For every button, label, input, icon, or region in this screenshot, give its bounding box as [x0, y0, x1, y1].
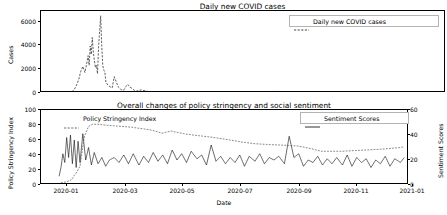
figure-canvas: Daily new COVID cases Cases 0 2000 4000 …: [0, 0, 447, 215]
y-tick-ss-60: 60: [410, 106, 428, 113]
tickmark: [66, 184, 67, 186]
x-tick-2020-07: 2020-07: [227, 187, 252, 194]
y-tick-sp-100: 100: [18, 106, 36, 113]
y-tick-sp-60: 60: [18, 136, 36, 143]
x-tick-2021-01: 2021-01: [399, 187, 424, 194]
x-tick-2020-09: 2020-09: [286, 187, 311, 194]
legend-swatch-solid-sentiment: [305, 115, 320, 121]
y-tick-covid-6000: 6000: [18, 17, 36, 24]
y-tick-sp-20: 20: [18, 166, 36, 173]
y-tick-sp-80: 80: [18, 121, 36, 128]
y-tick-ss-20: 20: [410, 156, 428, 163]
y-tick-sp-0: 0: [18, 181, 36, 188]
legend-sentiment-scores[interactable]: Sentiment Scores: [300, 112, 409, 124]
y-tick-covid-2000: 2000: [18, 64, 36, 71]
x-tick-2020-01: 2020-01: [53, 187, 78, 194]
legend-label-covid: Daily new COVID cases: [313, 18, 386, 25]
y-tick-ss-40: 40: [410, 131, 428, 138]
tickmark: [125, 184, 126, 186]
x-axis-label-date: Date: [40, 199, 408, 206]
tickmark: [408, 134, 410, 135]
legend-swatch-dashed-stringency: [64, 116, 79, 122]
y-axis-label-sentiment: Sentiment Scores: [437, 123, 444, 178]
x-tick-2020-03: 2020-03: [112, 187, 137, 194]
y-tick-sp-40: 40: [18, 151, 36, 158]
tickmark: [408, 159, 410, 160]
legend-label-sentiment: Sentiment Scores: [324, 115, 379, 122]
tickmark: [38, 184, 40, 185]
x-tick-2020-11: 2020-11: [343, 187, 368, 194]
tickmark: [412, 184, 413, 186]
x-tick-2020-05: 2020-05: [169, 187, 194, 194]
y-axis-label-cases: Cases: [7, 46, 14, 64]
tickmark: [182, 184, 183, 186]
legend-covid[interactable]: Daily new COVID cases: [289, 15, 439, 27]
tickmark: [299, 184, 300, 186]
tickmark: [408, 109, 410, 110]
y-tick-covid-0: 0: [18, 88, 36, 95]
legend-swatch-dashed-covid: [294, 18, 309, 24]
y-axis-label-stringency: Policy Stringency Index: [7, 117, 14, 189]
y-tick-covid-4000: 4000: [18, 41, 36, 48]
tickmark: [240, 184, 241, 186]
legend-policy-stringency[interactable]: Policy Stringency Index: [60, 113, 180, 124]
tickmark: [408, 184, 410, 185]
legend-label-stringency: Policy Stringency Index: [83, 115, 156, 122]
tickmark: [356, 184, 357, 186]
